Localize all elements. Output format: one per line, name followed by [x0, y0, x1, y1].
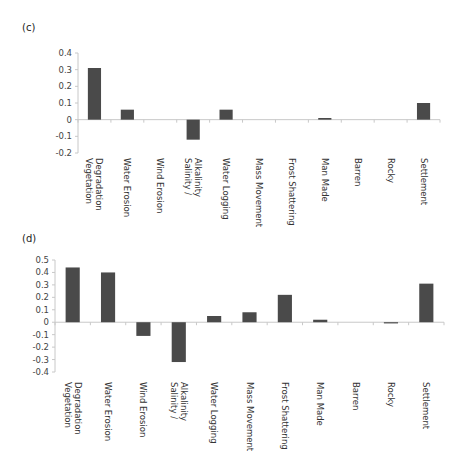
x-category-label: VegetationDegradation [63, 382, 83, 435]
x-category-label: Wind Erosion [138, 382, 148, 437]
x-category-label: Salinity /Alkalinity [169, 382, 189, 421]
y-tick-label: 0 [44, 317, 49, 327]
y-tick-label: 0.4 [35, 267, 49, 277]
bar [207, 316, 221, 322]
y-tick-label: -0.4 [32, 367, 49, 377]
y-tick-label: 0.3 [35, 280, 49, 290]
x-category-label: Water Erosion [103, 382, 113, 441]
svg-text:Salinity /: Salinity / [169, 382, 179, 419]
x-category-label: Mass Movement [245, 382, 255, 452]
y-tick-label: -0.1 [32, 330, 49, 340]
x-category-label: Barren [351, 382, 361, 410]
svg-text:Degradation: Degradation [73, 382, 83, 435]
bar [242, 312, 256, 322]
x-category-label: Frost Shattering [280, 382, 290, 450]
bar [136, 322, 150, 336]
svg-text:Mass Movement: Mass Movement [245, 382, 255, 452]
bar [66, 267, 80, 322]
y-tick-label: 0.5 [35, 255, 49, 265]
svg-text:Water Erosion: Water Erosion [103, 382, 113, 441]
bar [313, 320, 327, 322]
svg-text:Water Logging: Water Logging [209, 382, 219, 444]
x-category-label: Rocky [386, 382, 396, 407]
svg-text:Rocky: Rocky [386, 382, 396, 407]
svg-text:Alkalinity: Alkalinity [179, 382, 189, 421]
bar [101, 272, 115, 322]
bar [278, 295, 292, 322]
x-category-label: Water Logging [209, 382, 219, 444]
x-category-label: Man Made [315, 382, 325, 426]
bar-chart-d: 0.50.40.30.20.10-0.1-0.2-0.3-0.4Vegetati… [0, 0, 464, 461]
x-category-label: Settlement [421, 382, 431, 430]
svg-text:Barren: Barren [351, 382, 361, 410]
svg-text:Settlement: Settlement [421, 382, 431, 430]
bar [172, 322, 186, 362]
y-tick-label: -0.3 [32, 355, 49, 365]
y-tick-label: 0.2 [35, 292, 49, 302]
svg-text:Man Made: Man Made [315, 382, 325, 426]
y-tick-label: -0.2 [32, 342, 49, 352]
bar [384, 322, 398, 323]
y-tick-label: 0.1 [35, 305, 49, 315]
svg-text:Frost Shattering: Frost Shattering [280, 382, 290, 450]
svg-text:Vegetation: Vegetation [63, 382, 73, 428]
bar [419, 284, 433, 323]
svg-text:Wind Erosion: Wind Erosion [138, 382, 148, 437]
